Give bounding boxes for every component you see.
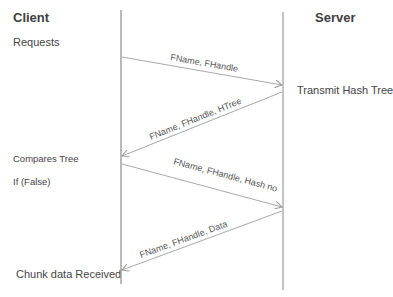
message-3-label: FName, FHandle, Hash no	[172, 156, 278, 193]
message-1: FName, FHandle	[122, 52, 282, 85]
message-2: FName, FHandle, HTree	[122, 92, 282, 156]
message-1-label: FName, FHandle	[170, 52, 239, 74]
message-4: FName, FHandle, Data	[122, 211, 282, 270]
message-2-label: FName, FHandle, HTree	[148, 96, 243, 142]
message-4-label: FName, FHandle, Data	[138, 219, 228, 260]
message-3: FName, FHandle, Hash no	[122, 156, 282, 207]
